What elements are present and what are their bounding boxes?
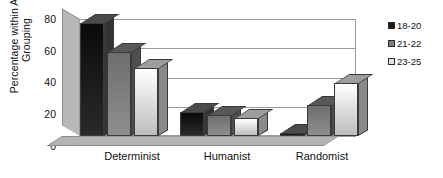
y-axis-tick-40: 40 [32,77,56,87]
bar-randomist-21-22[interactable] [307,105,331,136]
bar-side [358,77,368,136]
x-axis-tick-randomist: Randomist [262,150,382,162]
y-axis-tick-20: 20 [32,109,56,119]
bar-front [334,83,358,136]
legend-item-23-25[interactable]: 23-25 [388,52,421,70]
legend: 18-20 21-22 23-25 [388,16,421,70]
bar-humanist-18-20[interactable] [180,112,204,136]
y-axis-tick-60: 60 [32,46,56,56]
legend-label: 18-20 [397,20,421,31]
bar-determinist-21-22[interactable] [107,52,131,136]
bar-determinist-18-20[interactable] [80,23,104,136]
legend-item-18-20[interactable]: 18-20 [388,16,421,34]
legend-label: 21-22 [397,38,421,49]
bar-front [280,133,304,136]
y-axis-title-line-2: Grouping [20,18,32,62]
bar-series-group [62,19,356,146]
legend-item-21-22[interactable]: 21-22 [388,34,421,52]
legend-swatch-icon [388,58,395,65]
bar-randomist-23-25[interactable] [334,83,358,136]
legend-label: 23-25 [397,56,421,67]
bar-chart: Percentage within Age Grouping 80 60 40 … [0,0,443,178]
bar-humanist-21-22[interactable] [207,115,231,136]
x-axis-tick-labels: Determinist Humanist Randomist [62,150,356,170]
bar-determinist-23-25[interactable] [134,68,158,136]
bar-front [107,52,131,136]
bar-front [307,105,331,136]
y-axis-title-line-1: Percentage within Age [8,0,20,93]
bar-randomist-18-20[interactable] [280,133,304,136]
bar-front [180,112,204,136]
bar-side [158,62,168,136]
bar-front [80,23,104,136]
bar-front [207,115,231,136]
y-axis-tick-80: 80 [32,14,56,24]
bar-front [234,118,258,136]
legend-swatch-icon [388,22,395,29]
bar-front [134,68,158,136]
bar-humanist-23-25[interactable] [234,118,258,136]
y-axis-tick-labels: 80 60 40 20 0 [32,0,56,178]
plot-area [62,19,356,146]
legend-swatch-icon [388,40,395,47]
